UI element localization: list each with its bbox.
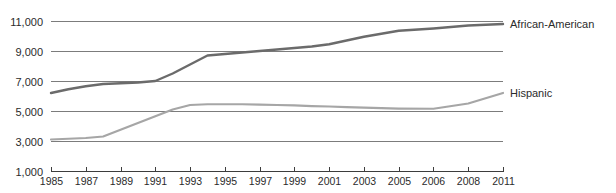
x-tick-labels-group: 1985198719891991199319951997199920012003…: [40, 175, 515, 187]
y-tick-labels-group: 1,0003,0005,0007,0009,00011,000: [10, 16, 43, 178]
x-tick-label: 2003: [353, 175, 377, 187]
series-labels-group: African-AmericanHispanic: [510, 18, 594, 99]
y-tick-label: 5,000: [15, 106, 43, 118]
y-tick-label: 11,000: [10, 16, 43, 28]
y-tick-label: 7,000: [15, 76, 43, 88]
x-tick-label: 1987: [75, 175, 99, 187]
line-chart: 1,0003,0005,0007,0009,00011,000 19851987…: [0, 0, 616, 193]
x-tick-label: 2005: [388, 175, 412, 187]
y-tick-label: 9,000: [15, 46, 43, 58]
series-line-hispanic: [51, 93, 503, 140]
x-tick-label: 1985: [40, 175, 64, 187]
x-tick-label: 1989: [110, 175, 134, 187]
x-tick-label: 1999: [283, 175, 307, 187]
x-tick-label: 1991: [144, 175, 168, 187]
x-tick-label: 2011: [492, 175, 515, 187]
series-label-african-american: African-American: [510, 18, 594, 30]
x-tick-label: 1997: [249, 175, 273, 187]
x-tick-label: 2001: [318, 175, 342, 187]
series-label-hispanic: Hispanic: [510, 87, 553, 99]
x-tick-label: 2006: [422, 175, 446, 187]
gridlines-group: [51, 22, 503, 142]
chart-canvas: 1,0003,0005,0007,0009,00011,000 19851987…: [0, 0, 616, 193]
y-tick-label: 3,000: [15, 136, 43, 148]
x-tick-label: 2008: [457, 175, 481, 187]
x-tick-label: 1995: [214, 175, 238, 187]
series-line-african-american: [51, 24, 503, 93]
x-axis-group: [51, 167, 504, 172]
x-tick-label: 1993: [179, 175, 203, 187]
